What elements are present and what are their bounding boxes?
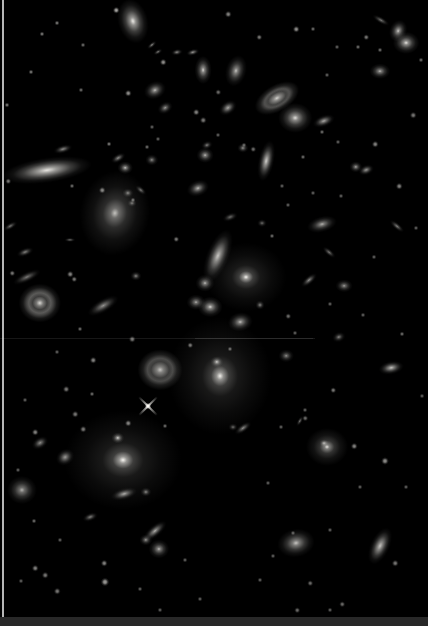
galaxy-edge-on [80,510,100,524]
star [357,484,363,490]
star [53,587,61,595]
galaxy-edge-on [215,95,242,120]
star [62,385,70,393]
star [355,44,361,50]
galaxy-ring-spiral [16,281,64,325]
star [224,10,232,18]
scan-scratch-line [195,338,313,339]
star [137,586,143,592]
star [227,346,233,352]
star-core [145,403,152,410]
star [257,577,263,583]
star [155,136,161,142]
star [327,527,333,533]
star [173,236,180,243]
galaxy-compact [319,439,330,448]
galaxy-edge-on [152,47,164,57]
star [270,553,276,559]
star [197,596,203,602]
star [363,34,370,41]
star [391,559,399,567]
star [381,457,390,466]
star [69,183,75,189]
galaxy-edge-on [63,237,76,242]
star [71,410,79,418]
star [360,312,366,318]
galaxy-elliptical [334,278,354,293]
star [80,42,86,48]
star [241,142,247,148]
star [403,484,409,490]
galaxy-elliptical [391,30,422,56]
photo-edge-line [2,0,4,626]
galaxy-elliptical [275,100,315,135]
photo-bottom-border [0,617,428,626]
star [399,331,405,337]
galaxy-elliptical [4,474,39,507]
star [57,537,63,543]
star [54,20,60,26]
star [18,578,24,584]
galaxy-edge-on [82,289,124,322]
star [78,87,84,93]
star-diffraction-spikes [135,393,161,419]
star [5,178,12,185]
star [100,577,110,587]
galaxy-elliptical [147,538,171,560]
star [334,44,340,50]
galaxy-giant-cd [164,312,276,440]
galaxy-compact [277,348,295,363]
galaxy-edge-on [1,219,20,234]
star [302,407,308,413]
galaxy-elliptical [193,54,213,87]
galaxy-edge-on [220,210,240,224]
galaxy-elliptical [368,62,392,80]
star [215,89,222,96]
star [31,518,37,524]
star [290,530,296,536]
star [371,140,379,148]
star [307,580,314,587]
star [54,349,60,355]
star [350,442,358,450]
star [77,326,83,332]
galaxy-elliptical [194,273,216,293]
star [144,144,150,150]
star [159,58,167,66]
galaxy-edge-on [252,136,279,187]
star [419,393,425,399]
galaxy-elliptical [183,175,214,201]
star [327,301,333,307]
star [215,132,221,138]
star [339,601,346,608]
galaxy-compact [255,300,266,311]
star [418,57,424,63]
star [98,186,106,194]
star [199,116,207,124]
star [327,607,333,613]
star [100,559,108,567]
star [278,424,284,430]
star [413,225,419,231]
star [112,6,120,14]
galaxy-compact [154,98,176,118]
galaxy-bright-elliptical [303,425,351,468]
galaxy-edge-on [298,270,321,291]
star [31,564,39,572]
star [377,47,383,53]
galaxy-edge-on [14,244,36,259]
galaxy-compact [116,160,134,175]
galaxy-edge-on [320,244,338,260]
star [265,480,271,486]
star [310,190,316,196]
star [71,276,78,283]
galaxy-cluster-photo [0,0,428,626]
star [285,202,291,208]
galaxy-compact [129,271,142,282]
star [300,154,306,160]
star [292,25,300,33]
star [106,141,112,147]
star [89,391,95,397]
galaxy-compact [257,219,268,228]
star [4,102,10,108]
